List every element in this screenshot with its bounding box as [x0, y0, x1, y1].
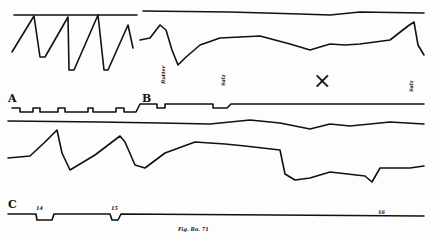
figure-caption: Fig. Bn. 71 [178, 226, 209, 232]
annotation-c-14: 14 [36, 205, 43, 211]
annotation-c-16: 16 [378, 209, 385, 215]
trace-a-oscillation [12, 15, 133, 70]
annotation-b-right: Salz [408, 80, 414, 92]
trace-ab-stimulus [12, 104, 424, 112]
recording-figure: A B C × Butter Salz Salz 14 15 16 Fig. B… [0, 0, 434, 239]
trace-c-baseline [8, 120, 424, 129]
trace-b-main [140, 22, 424, 65]
cross-marker: × [313, 68, 331, 93]
traces [0, 0, 434, 239]
panel-label-c: C [8, 198, 17, 211]
trace-b-baseline [143, 11, 424, 15]
annotation-b-mid: Salz [220, 74, 226, 86]
annotation-b-left: Butter [160, 66, 166, 84]
panel-label-a: A [8, 92, 17, 105]
panel-label-b: B [142, 92, 151, 105]
annotation-c-15: 15 [111, 205, 118, 211]
trace-c-stimulus [8, 214, 424, 220]
trace-c-main [8, 130, 424, 182]
